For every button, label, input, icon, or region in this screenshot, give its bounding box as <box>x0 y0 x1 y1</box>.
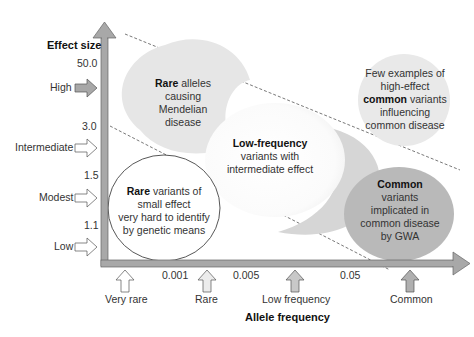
intermediate-arrow-icon <box>75 139 97 157</box>
mendelian-line3: Mendelian <box>159 103 207 115</box>
y-axis-title: Effect size <box>47 40 101 51</box>
common-gwa-line2: variants <box>382 191 419 203</box>
x-tick-0-001: 0.001 <box>162 270 188 281</box>
few-common-line4: influencing <box>380 106 430 118</box>
mendelian-region-text: Rare alleles causing Mendelian disease <box>128 77 238 129</box>
rare-small-line1: variants of <box>150 185 201 197</box>
mendelian-line1: alleles <box>178 77 211 89</box>
rare-arrow-icon <box>198 270 216 292</box>
y-tick-3: 3.0 <box>82 121 97 132</box>
x-category-low-frequency: Low frequency <box>262 294 330 305</box>
x-tick-0-05: 0.05 <box>340 270 360 281</box>
low-frequency-bold: Low-frequency <box>233 137 308 149</box>
mendelian-bold: Rare <box>155 77 178 89</box>
common-gwa-region-text: Common variants implicated in common dis… <box>350 178 450 243</box>
rare-small-bold: Rare <box>127 185 150 197</box>
rare-small-effect-text: Rare variants of small effect very hard … <box>109 185 219 237</box>
mendelian-line2: causing <box>165 90 201 102</box>
x-category-common: Common <box>390 294 433 305</box>
mendelian-line4: disease <box>165 116 201 128</box>
y-category-modest: Modest <box>39 192 73 203</box>
very-rare-arrow-icon <box>116 270 134 292</box>
common-gwa-line5: by GWA <box>381 230 420 242</box>
few-common-bold: common <box>363 93 407 105</box>
common-gwa-line4: common disease <box>360 217 439 229</box>
common-gwa-line3: implicated in <box>371 204 429 216</box>
rare-small-line4: by genetic means <box>123 224 205 236</box>
x-category-very-rare: Very rare <box>105 294 148 305</box>
low-arrow-icon <box>75 238 97 256</box>
x-category-rare: Rare <box>195 294 218 305</box>
y-category-intermediate: Intermediate <box>15 142 73 153</box>
high-arrow-icon <box>75 79 97 97</box>
low-frequency-arrow-icon <box>286 270 304 292</box>
few-common-line1: Few examples of <box>365 67 444 79</box>
y-tick-1-5: 1.5 <box>84 170 99 181</box>
few-common-line3: variants <box>407 93 447 105</box>
low-frequency-line2: variants with <box>241 150 299 162</box>
y-tick-1-1: 1.1 <box>84 220 99 231</box>
y-category-low: Low <box>54 241 73 252</box>
few-common-region-text: Few examples of high-effect common varia… <box>350 67 460 132</box>
few-common-line5: common disease <box>365 119 444 131</box>
modest-arrow-icon <box>75 189 97 207</box>
rare-small-line3: very hard to identify <box>118 211 210 223</box>
x-axis-title: Allele frequency <box>245 312 330 323</box>
rare-small-line2: small effect <box>138 198 191 210</box>
y-category-high: High <box>50 82 72 93</box>
common-arrow-icon <box>401 270 419 292</box>
few-common-line2: high-effect <box>381 80 430 92</box>
y-tick-50: 50.0 <box>77 58 97 69</box>
low-frequency-region-text: Low-frequency variants with intermediate… <box>210 137 330 176</box>
low-frequency-line3: intermediate effect <box>227 163 313 175</box>
x-tick-0-005: 0.005 <box>233 270 259 281</box>
common-gwa-bold: Common <box>377 178 423 190</box>
